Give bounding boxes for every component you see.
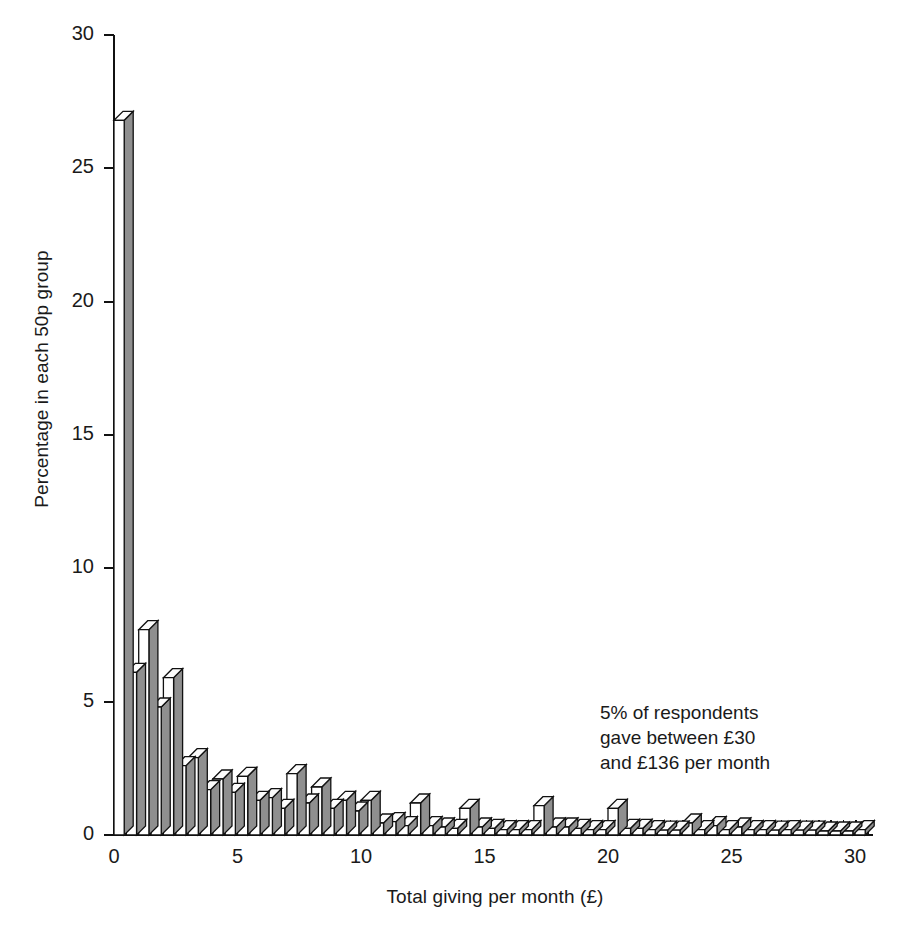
histogram-figure: Percentage in each 50p group Total givin… <box>0 0 916 936</box>
bar-side-face <box>161 698 170 835</box>
bar-side-face <box>149 621 158 835</box>
chart-annotation: 5% of respondents gave between £30 and £… <box>600 700 770 775</box>
bar-side-face <box>137 663 146 835</box>
bar-side-face <box>186 757 195 835</box>
bar-side-face <box>124 111 133 835</box>
bar-front-face <box>114 120 124 835</box>
bar-side-face <box>198 749 207 835</box>
bar-side-face <box>297 765 306 835</box>
bar-side-face <box>174 669 183 835</box>
histogram-bar <box>114 111 133 835</box>
bar-side-face <box>248 767 257 835</box>
bar-side-face <box>223 770 232 835</box>
bar-series-3d <box>0 0 916 936</box>
